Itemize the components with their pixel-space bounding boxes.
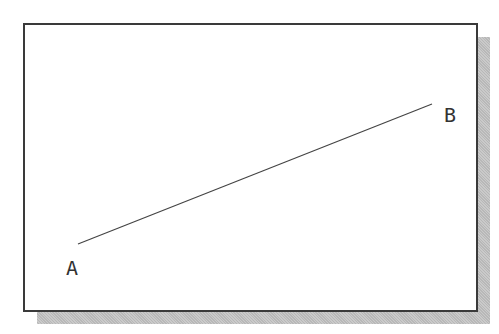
diagram-canvas	[0, 0, 499, 334]
point-label-a: A	[66, 258, 78, 278]
line-segment-ab	[78, 104, 432, 244]
point-label-b: B	[444, 105, 456, 125]
